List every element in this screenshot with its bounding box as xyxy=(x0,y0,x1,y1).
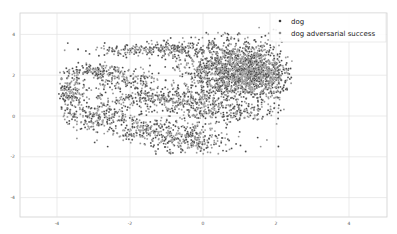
data-point xyxy=(273,76,275,78)
data-point xyxy=(281,73,283,75)
data-point xyxy=(166,41,168,43)
data-point xyxy=(150,82,152,84)
data-point xyxy=(213,143,215,145)
data-point xyxy=(228,99,230,101)
data-point xyxy=(223,115,225,117)
data-point xyxy=(102,104,104,106)
data-point xyxy=(223,42,225,44)
data-point xyxy=(168,44,170,46)
data-point xyxy=(217,70,219,72)
data-point xyxy=(251,76,253,78)
data-point xyxy=(125,96,127,98)
data-point xyxy=(85,64,87,66)
data-point xyxy=(207,60,209,62)
data-point xyxy=(142,68,144,70)
data-point xyxy=(164,100,166,102)
data-point xyxy=(132,48,134,50)
data-point xyxy=(130,114,132,116)
data-point xyxy=(184,142,186,144)
data-point xyxy=(114,108,116,110)
data-point xyxy=(201,66,203,68)
data-point xyxy=(70,82,72,84)
data-point xyxy=(268,32,270,34)
data-point xyxy=(264,57,266,59)
data-point xyxy=(241,71,243,73)
data-point xyxy=(210,104,212,106)
data-point xyxy=(181,142,183,144)
data-point xyxy=(215,111,217,113)
data-point xyxy=(71,74,73,76)
data-point xyxy=(133,116,135,118)
data-point xyxy=(236,77,238,79)
data-point xyxy=(216,57,218,59)
data-point xyxy=(237,74,239,76)
data-point xyxy=(107,98,109,100)
data-point xyxy=(263,74,265,76)
data-point xyxy=(204,108,206,110)
data-point xyxy=(172,129,174,131)
data-point xyxy=(194,100,196,102)
y-tick-label: 0 xyxy=(12,114,15,119)
data-point xyxy=(225,72,227,74)
data-point xyxy=(191,129,193,131)
data-point xyxy=(128,69,130,71)
data-point xyxy=(229,64,231,66)
data-point xyxy=(265,74,267,76)
data-point xyxy=(250,88,252,90)
data-point xyxy=(205,117,207,119)
data-point xyxy=(241,101,243,103)
data-point xyxy=(260,91,262,93)
data-point xyxy=(168,127,170,129)
data-point xyxy=(196,114,198,116)
data-point xyxy=(177,45,179,47)
data-point xyxy=(116,47,118,49)
data-point xyxy=(238,49,240,51)
data-point xyxy=(215,78,217,80)
data-point xyxy=(211,63,213,65)
data-point xyxy=(132,78,134,80)
data-point xyxy=(194,76,196,78)
data-point xyxy=(204,129,206,131)
data-point xyxy=(133,122,135,124)
data-point xyxy=(162,129,164,131)
data-point xyxy=(180,45,182,47)
data-point xyxy=(114,66,116,68)
data-point xyxy=(285,68,287,70)
data-point xyxy=(232,78,234,80)
data-point xyxy=(137,127,139,129)
data-point xyxy=(139,119,141,121)
data-point xyxy=(94,71,96,73)
data-point xyxy=(266,50,268,52)
data-point xyxy=(176,49,178,51)
data-point xyxy=(158,72,160,74)
data-point xyxy=(136,122,138,124)
data-point xyxy=(201,141,203,143)
data-point xyxy=(252,92,254,94)
legend-marker-adversarial xyxy=(279,32,282,35)
data-point xyxy=(240,58,242,60)
data-point xyxy=(276,62,278,64)
data-point xyxy=(283,108,285,110)
data-point xyxy=(153,78,155,80)
data-point xyxy=(237,34,239,36)
data-point xyxy=(229,114,231,116)
data-point xyxy=(168,53,170,55)
data-point xyxy=(202,37,204,39)
data-point xyxy=(111,114,113,116)
data-point xyxy=(227,38,229,40)
data-point xyxy=(186,72,188,74)
data-point xyxy=(95,87,97,89)
data-point xyxy=(239,118,241,120)
data-point xyxy=(199,95,201,97)
data-point xyxy=(242,88,244,90)
data-point xyxy=(132,134,134,136)
data-point xyxy=(119,109,121,111)
data-point xyxy=(133,102,135,104)
data-point xyxy=(76,123,78,125)
data-point xyxy=(72,92,74,94)
data-point xyxy=(137,75,139,77)
data-point xyxy=(126,125,128,127)
data-point xyxy=(238,136,240,138)
data-point xyxy=(290,82,292,84)
data-point xyxy=(196,152,198,154)
